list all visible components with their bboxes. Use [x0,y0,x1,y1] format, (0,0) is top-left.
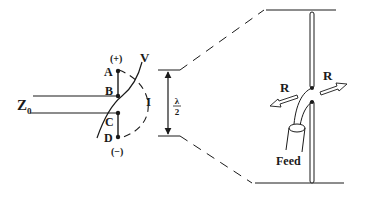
impedance-label: Z [17,97,27,113]
current-label: I [146,94,151,109]
feed-label: Feed [276,154,301,168]
lambda-label: λ [175,96,180,106]
radiation-arrow-right [320,83,347,95]
voltage-label: V [140,50,150,65]
projection-bottom [180,136,252,183]
point-c-dot [116,111,120,115]
radiation-right-label: R [323,68,333,83]
point-c-label: C [105,115,114,129]
point-d-dot [116,135,120,139]
two-label: 2 [175,107,180,117]
radiation-left-label: R [280,80,290,95]
dipole-upper-element [310,12,314,90]
point-a-dot [116,69,120,73]
minus-label: (−) [111,146,123,158]
point-b-label: B [105,84,113,98]
dipole-lower-element [310,100,314,183]
projection-top [180,10,264,70]
plus-label: (+) [110,53,122,65]
impedance-subscript: 0 [27,106,32,116]
current-wave [119,70,148,138]
dipole-diagram: Z 0 (+) A B C D (−) V I λ 2 R R Feed [0,0,367,197]
radiation-arrow-left [270,95,298,107]
point-a-label: A [104,65,113,79]
point-d-label: D [104,131,113,145]
